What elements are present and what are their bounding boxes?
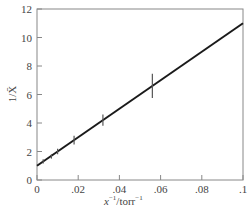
x-tick-label: 0 (34, 183, 40, 195)
x-axis-label: x−1/torr−1 (104, 194, 143, 207)
y-tick-label: 8 (27, 60, 33, 72)
y-axis-label: 1/X̄ (6, 86, 18, 103)
y-tick-label: 6 (27, 89, 33, 101)
x-tick-label: .08 (195, 183, 209, 195)
x-tick-label: .1 (239, 183, 247, 195)
x-axis-label-unit-sup: −1 (135, 194, 142, 202)
x-axis-label-unit: /torr (116, 195, 135, 207)
y-tick-label: 12 (21, 3, 32, 15)
y-tick-label: 0 (27, 174, 33, 186)
y-tick-label: 10 (21, 32, 33, 44)
y-tick-label: 2 (27, 146, 33, 158)
fit-line (37, 23, 243, 166)
chart: 0.02.04.06.08.1024681012 (0, 0, 250, 213)
x-tick-label: .02 (71, 183, 85, 195)
y-tick-label: 4 (27, 117, 33, 129)
x-tick-label: .06 (154, 183, 168, 195)
